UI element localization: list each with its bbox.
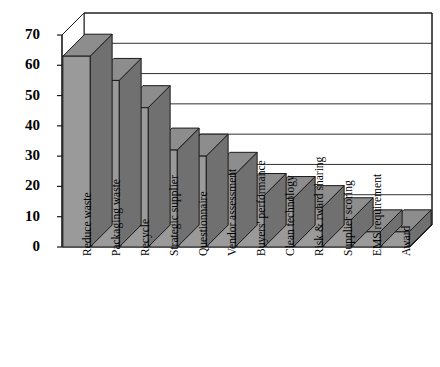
x-tick-label: Buyers' performance bbox=[256, 160, 268, 256]
x-tick-label: Recycle bbox=[140, 219, 152, 256]
x-axis: Reduce wastePackaging wasteRecycleStrate… bbox=[0, 0, 440, 367]
x-tick-label: Packaging waste bbox=[111, 179, 123, 256]
x-tick-label: Supplier scoring bbox=[343, 180, 355, 256]
x-tick-label: Clean technology bbox=[285, 175, 297, 256]
x-tick-label: Award bbox=[401, 226, 413, 256]
x-tick-label: Strategic supplier bbox=[169, 175, 181, 256]
bar-chart: 706050403020100 Reduce wastePackaging wa… bbox=[0, 0, 440, 367]
x-tick-label: Vendor assessment bbox=[227, 169, 239, 256]
x-tick-label: Questionnaire bbox=[198, 191, 210, 256]
x-tick-label: EMS requirement bbox=[372, 174, 384, 256]
x-tick-label: Risk & rward sharing bbox=[314, 157, 326, 256]
x-tick-label: Reduce waste bbox=[82, 192, 94, 256]
